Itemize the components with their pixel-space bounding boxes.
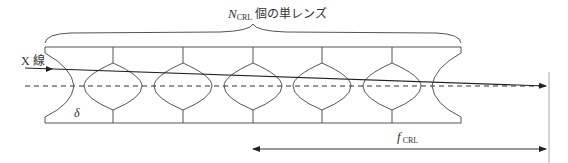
- brace: [45, 24, 461, 43]
- lens-divider-1: [84, 47, 142, 123]
- lens-divider-4: [293, 47, 351, 123]
- lens-count-label: NCRL個の単レンズ: [227, 6, 327, 22]
- lens-stack: [45, 47, 461, 123]
- focal-length-label: fCRL: [397, 129, 418, 145]
- xray-entry-arrow-icon: [46, 66, 53, 72]
- lens-divider-5: [363, 47, 421, 123]
- lens-divider-3: [224, 47, 282, 123]
- delta-label: δ: [74, 106, 80, 120]
- lens-divider-2: [154, 47, 212, 123]
- crl-diagram: NCRL個の単レンズ X 線 δ fCRL: [0, 0, 568, 163]
- xray-label: X 線: [21, 53, 45, 68]
- xray-beam: [25, 68, 546, 86]
